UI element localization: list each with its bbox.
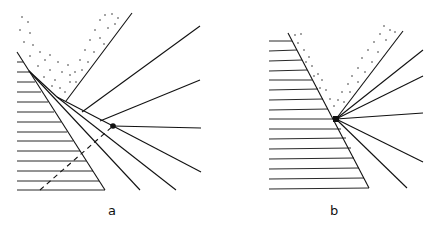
stippled-region-a xyxy=(19,13,119,93)
edge-line-b xyxy=(288,33,369,188)
diagram-canvas xyxy=(0,0,434,232)
vertex-dot-a xyxy=(110,123,116,129)
panel-b xyxy=(269,25,423,189)
stippled-region-b xyxy=(294,25,396,107)
hatched-region-a xyxy=(17,62,105,190)
hatched-region-b xyxy=(269,41,369,189)
panel-label-b: b xyxy=(330,203,338,218)
dashed-line-a xyxy=(40,126,113,190)
vertex-dot-b xyxy=(333,116,339,122)
panel-a xyxy=(17,13,201,190)
panel-label-a: a xyxy=(108,203,116,218)
